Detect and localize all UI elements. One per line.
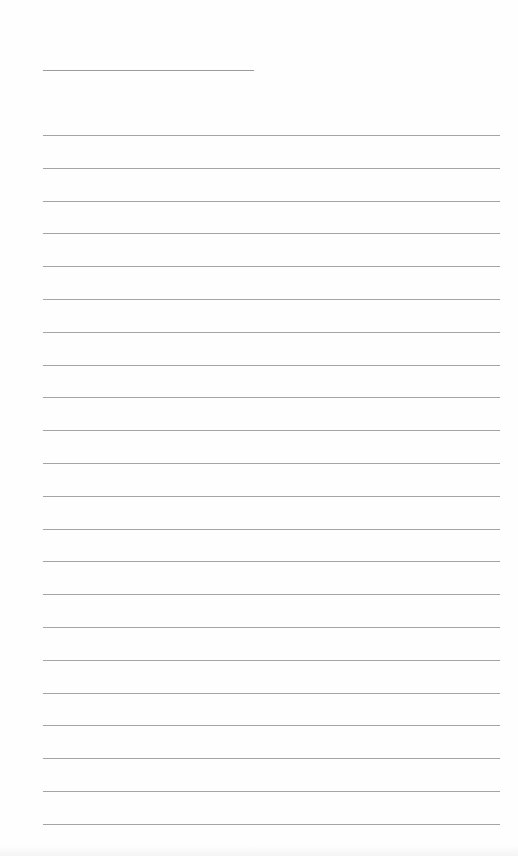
ruled-line [43,496,500,497]
ruled-line [43,266,500,267]
ruled-line [43,725,500,726]
ruled-line [43,594,500,595]
ruled-line [43,168,500,169]
ruled-line [43,332,500,333]
ruled-line [43,135,500,136]
title-line [43,70,254,71]
ruled-line [43,627,500,628]
ruled-line [43,791,500,792]
ruled-line [43,758,500,759]
ruled-line [43,529,500,530]
ruled-line [43,365,500,366]
ruled-line [43,430,500,431]
lined-page [0,0,518,856]
ruled-line [43,299,500,300]
ruled-line [43,201,500,202]
ruled-line [43,233,500,234]
ruled-line [43,561,500,562]
ruled-line [43,660,500,661]
ruled-line [43,397,500,398]
ruled-line [43,463,500,464]
bottom-bleed-through [0,846,518,856]
ruled-line [43,824,500,825]
ruled-line [43,693,500,694]
